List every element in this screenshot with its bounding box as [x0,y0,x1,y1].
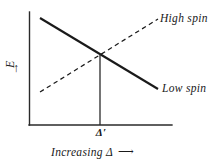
series-line-low-spin [40,18,158,89]
x-axis-label-text: Increasing Δ [51,146,113,158]
y-axis-label-group: ↑ E [2,44,24,96]
series-line-high-spin [40,19,158,92]
x-axis-tick-label-delta-prime: Δ′ [88,127,114,138]
series-label-low-spin: Low spin [162,83,206,95]
figure-root: High spin Low spin Δ′ Increasing Δ⟶ ↑ E [0,0,221,164]
series-label-high-spin: High spin [160,13,208,25]
x-axis-label: Increasing Δ⟶ [51,146,134,159]
y-axis-label: E [4,61,16,68]
x-axis-arrow-icon: ⟶ [118,146,134,157]
